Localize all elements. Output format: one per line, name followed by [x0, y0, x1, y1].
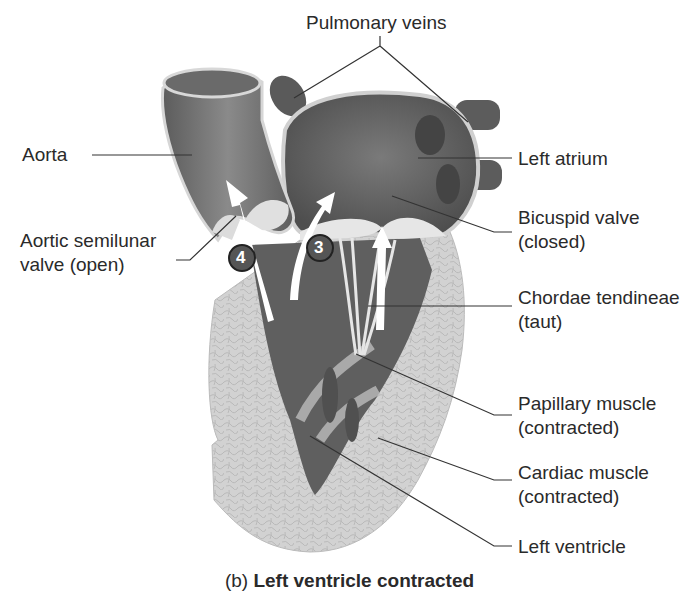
caption-title: Left ventricle contracted: [253, 570, 474, 591]
label-cardiac-line1: Cardiac muscle: [518, 462, 649, 484]
label-chordae-line1: Chordae tendineae: [518, 287, 680, 309]
label-papillary-line2: (contracted): [518, 417, 619, 439]
caption-prefix: (b): [225, 570, 248, 591]
label-papillary-line1: Papillary muscle: [518, 393, 656, 415]
figure-caption: (b) Left ventricle contracted: [0, 570, 699, 592]
label-left-ventricle: Left ventricle: [518, 536, 626, 558]
label-aortic-valve-line1: Aortic semilunar: [20, 230, 156, 252]
step-number-4: 4: [236, 247, 245, 269]
step-number-3: 3: [314, 237, 323, 259]
label-cardiac-line2: (contracted): [518, 486, 619, 508]
label-bicuspid-line1: Bicuspid valve: [518, 207, 639, 229]
label-left-atrium: Left atrium: [518, 148, 608, 170]
label-pulmonary-veins: Pulmonary veins: [306, 12, 446, 34]
label-aorta: Aorta: [22, 144, 67, 166]
left-atrium: [283, 93, 478, 236]
label-bicuspid-line2: (closed): [518, 231, 586, 253]
label-aortic-valve-line2: valve (open): [20, 254, 125, 276]
label-chordae-line2: (taut): [518, 311, 562, 333]
heart-diagram: 4 3 Pulmonary veins Aorta Aortic semilun…: [0, 0, 699, 601]
